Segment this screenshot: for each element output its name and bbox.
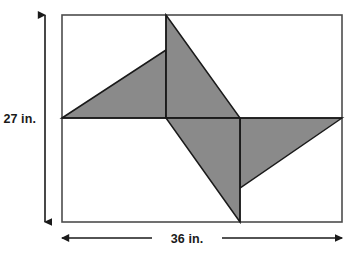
height-dimension-label: 27 in. xyxy=(3,112,36,126)
geometry-figure: 27 in. 36 in. xyxy=(0,0,361,254)
width-dimension-label: 36 in. xyxy=(171,232,204,246)
figure-canvas: 27 in. 36 in. xyxy=(0,0,361,254)
